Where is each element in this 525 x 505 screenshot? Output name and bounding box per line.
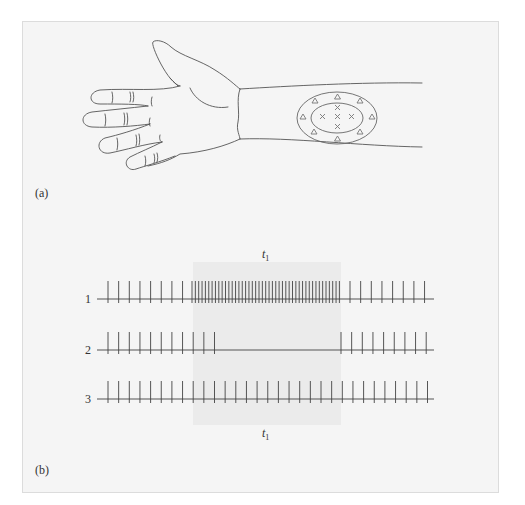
spike-train-1-label: 1 bbox=[85, 292, 91, 307]
spike-train-2-label: 2 bbox=[85, 343, 91, 358]
receptive-field bbox=[297, 92, 377, 144]
panel-a-label: (a) bbox=[35, 186, 48, 201]
hand-drawing bbox=[83, 41, 422, 170]
spike-train-3-label: 3 bbox=[85, 392, 91, 407]
time-marker-bottom-sub: 1 bbox=[265, 433, 269, 442]
time-marker-top: t1 bbox=[262, 247, 269, 263]
time-marker-bottom: t1 bbox=[262, 426, 269, 442]
panel-b-label: (b) bbox=[35, 463, 49, 478]
time-marker-top-sub: 1 bbox=[265, 254, 269, 263]
excitatory-center-marks bbox=[320, 105, 354, 129]
